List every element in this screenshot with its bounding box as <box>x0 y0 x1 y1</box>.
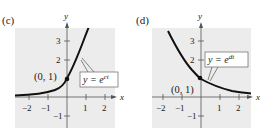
svg-text:3: 3 <box>56 36 61 46</box>
panel-c: (c) y x −2 −1 1 2 3 2 −1 <box>2 11 124 128</box>
svg-text:2: 2 <box>236 103 241 113</box>
point-label: (0, 1) <box>34 71 57 83</box>
y-axis-label: y <box>197 11 202 21</box>
svg-text:−1: −1 <box>53 111 63 121</box>
x-axis-label: x <box>119 92 124 102</box>
panel-label: (c) <box>2 14 15 27</box>
figure: (c) y x −2 −1 1 2 3 2 −1 <box>0 0 271 135</box>
svg-text:−2: −2 <box>156 103 166 113</box>
point-0-1 <box>198 76 203 81</box>
svg-text:−1: −1 <box>175 103 185 113</box>
svg-text:2: 2 <box>190 55 195 65</box>
svg-text:1: 1 <box>83 103 88 113</box>
y-axis-label: y <box>63 11 68 21</box>
svg-text:1: 1 <box>217 103 222 113</box>
y-axis-arrow-icon <box>199 22 203 28</box>
panel-d: (d) y x −2 −1 1 2 3 2 −1 <box>136 11 260 128</box>
svg-text:−2: −2 <box>22 103 32 113</box>
panel-label: (d) <box>136 14 149 27</box>
x-axis-label: x <box>255 92 260 102</box>
y-axis-arrow-icon <box>65 22 69 28</box>
svg-text:3: 3 <box>190 36 195 46</box>
point-label: (0, 1) <box>171 84 194 96</box>
svg-text:2: 2 <box>102 103 107 113</box>
svg-text:−1: −1 <box>187 111 197 121</box>
svg-text:−1: −1 <box>41 103 51 113</box>
point-0-1 <box>65 77 70 82</box>
svg-text:2: 2 <box>56 55 61 65</box>
